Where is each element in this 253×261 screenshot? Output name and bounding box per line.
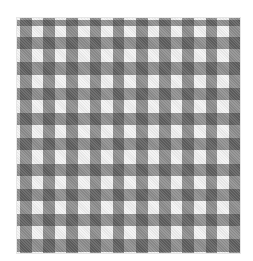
horizontal-stripe [17, 62, 240, 74]
horizontal-stripe [17, 88, 240, 100]
horizontal-stripe [17, 113, 240, 125]
horizontal-stripe [17, 20, 240, 26]
horizontal-stripe [17, 37, 240, 49]
horizontal-stripe [17, 214, 240, 226]
horizontal-stripe [17, 138, 240, 150]
horizontal-stripe [17, 164, 240, 176]
gingham-fabric-swatch [17, 18, 240, 253]
horizontal-stripe [17, 189, 240, 201]
horizontal-stripe [17, 239, 240, 251]
